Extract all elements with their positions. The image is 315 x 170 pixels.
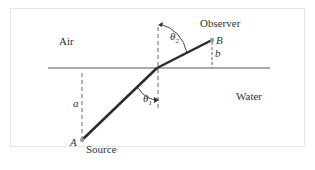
- theta2-arrowhead: [158, 22, 163, 27]
- distance-a-label: a: [73, 98, 79, 109]
- theta2-subscript: 2: [175, 37, 179, 45]
- air-label: Air: [59, 36, 74, 47]
- point-b-label: B: [216, 35, 223, 46]
- observer-point: [210, 38, 214, 42]
- distance-b-label: b: [215, 48, 221, 59]
- theta2-label: θ2: [170, 31, 179, 45]
- water-label: Water: [236, 91, 262, 102]
- point-a-label: A: [70, 137, 77, 148]
- theta1-label: θ1: [143, 93, 152, 107]
- observer-label: Observer: [200, 18, 240, 29]
- source-point: [80, 138, 84, 142]
- theta1-subscript: 1: [148, 99, 152, 107]
- source-label: Source: [86, 144, 117, 155]
- refraction-diagram: [0, 0, 315, 170]
